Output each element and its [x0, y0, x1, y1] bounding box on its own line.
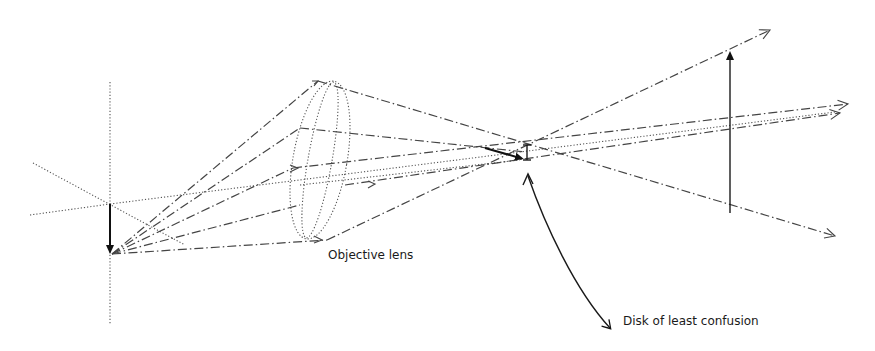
disk-label-leader — [528, 176, 610, 328]
guide-ray-left-lower — [30, 204, 110, 215]
disk-of-least-confusion-label: Disk of least confusion — [623, 314, 759, 328]
ray-in-2 — [112, 168, 293, 254]
ray-in-5 — [112, 128, 300, 254]
ray-out-4 — [327, 30, 770, 240]
ray-in-1 — [112, 81, 318, 254]
objective-lens-outer — [280, 77, 361, 244]
ray-in-4 — [112, 240, 327, 254]
ray-out-3 — [345, 113, 840, 185]
ray-out-1 — [318, 81, 835, 236]
chief-ray-dotted — [110, 112, 835, 204]
objective-lens-inner — [294, 80, 345, 240]
ray-out-2 — [293, 104, 848, 168]
objective-lens-label: Objective lens — [328, 248, 413, 262]
disk-label-leader-tip — [523, 174, 533, 185]
spherical-aberration-diagram — [0, 0, 875, 351]
lens-ray-arrow-3 — [314, 236, 322, 243]
ray-out-5 — [300, 128, 525, 152]
ray-in-3 — [112, 205, 300, 254]
